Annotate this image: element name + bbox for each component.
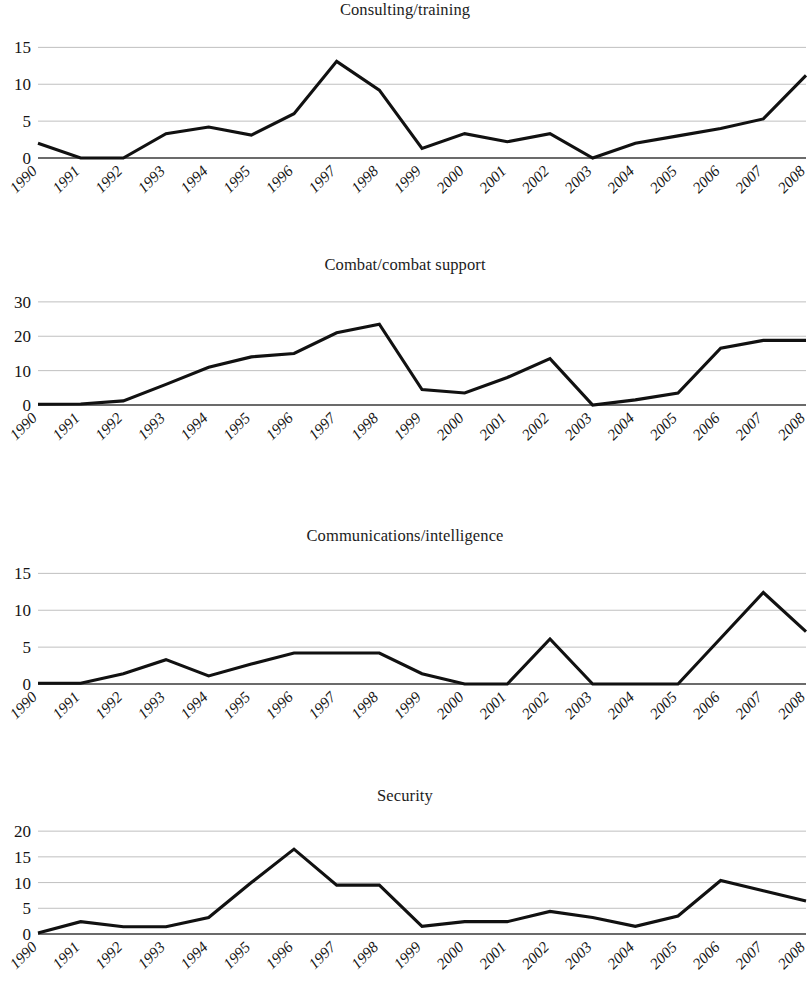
x-axis-tick-label: 1998 [348, 688, 382, 722]
y-axis-tick-label: 30 [14, 293, 31, 312]
chart-panel-security: Security 0510152019901991199219931994199… [0, 788, 810, 985]
x-axis-tick-label: 1998 [348, 409, 382, 443]
x-axis-tick-label: 1996 [262, 409, 296, 443]
x-axis-tick-label: 2007 [732, 408, 767, 443]
plot-area: 0510151990199119921993199419951996199719… [0, 22, 810, 232]
x-axis-tick-label: 1991 [49, 688, 83, 722]
x-axis-tick-label: 2000 [433, 688, 467, 722]
x-axis-tick-label: 1990 [6, 409, 40, 443]
x-axis-tick-label: 1996 [262, 162, 296, 196]
x-axis-tick-label: 2007 [732, 937, 767, 972]
x-axis-tick-labels: 1990199119921993199419951996199719981999… [6, 687, 808, 722]
x-axis-tick-label: 1999 [390, 162, 424, 196]
x-axis-tick-label: 1993 [134, 409, 168, 443]
x-axis-tick-label: 1997 [305, 161, 340, 196]
x-axis-tick-label: 2002 [518, 409, 552, 443]
x-axis-tick-label: 1991 [49, 162, 83, 196]
x-axis-tick-label: 2002 [518, 162, 552, 196]
plot-area: 0510152019901991199219931994199519961997… [0, 808, 810, 985]
x-axis-tick-label: 1990 [6, 938, 40, 972]
x-axis-tick-label: 1992 [92, 938, 126, 972]
line-chart-svg: 0510151990199119921993199419951996199719… [0, 548, 810, 758]
x-axis-tick-label: 2006 [689, 688, 723, 722]
line-chart-svg: 0510152019901991199219931994199519961997… [0, 808, 810, 985]
x-axis-tick-label: 1995 [220, 409, 254, 443]
x-axis-tick-label: 1990 [6, 162, 40, 196]
x-axis-tick-label: 2000 [433, 162, 467, 196]
x-axis-tick-label: 2007 [732, 161, 767, 196]
x-axis-tick-label: 1994 [177, 409, 211, 443]
y-axis-tick-label: 10 [14, 75, 31, 94]
x-axis-tick-label: 1992 [92, 162, 126, 196]
x-axis-tick-label: 2008 [774, 409, 808, 443]
plot-area: 0510151990199119921993199419951996199719… [0, 548, 810, 758]
x-axis-tick-label: 1997 [305, 687, 340, 722]
y-axis-tick-label: 10 [14, 874, 31, 893]
y-axis-tick-label: 10 [14, 362, 31, 381]
x-axis-tick-label: 2001 [476, 162, 510, 196]
chart-panel-communications-intelligence: Communications/intelligence 051015199019… [0, 528, 810, 758]
x-axis-tick-label: 1994 [177, 938, 211, 972]
x-axis-tick-label: 1993 [134, 688, 168, 722]
chart-title: Consulting/training [0, 2, 810, 22]
x-axis-tick-label: 2002 [518, 688, 552, 722]
x-axis-tick-label: 1998 [348, 938, 382, 972]
y-axis-tick-label: 15 [14, 38, 31, 57]
x-axis-tick-label: 1994 [177, 688, 211, 722]
x-axis-tick-label: 1991 [49, 409, 83, 443]
y-axis-tick-label: 5 [23, 899, 32, 918]
x-axis-tick-label: 2005 [646, 688, 680, 722]
chart-title: Communications/intelligence [0, 528, 810, 548]
x-axis-tick-label: 2003 [561, 162, 595, 196]
x-axis-tick-label: 1996 [262, 938, 296, 972]
x-axis-tick-label: 1993 [134, 162, 168, 196]
y-axis-tick-label: 5 [23, 112, 32, 131]
x-axis-tick-label: 1999 [390, 409, 424, 443]
x-axis-tick-label: 1995 [220, 938, 254, 972]
y-axis-tick-label: 20 [14, 822, 31, 841]
x-axis-tick-label: 2003 [561, 409, 595, 443]
data-series-line [38, 849, 806, 933]
chart-panel-consulting-training: Consulting/training 05101519901991199219… [0, 2, 810, 232]
x-axis-tick-label: 2003 [561, 938, 595, 972]
x-axis-tick-label: 2008 [774, 688, 808, 722]
x-axis-tick-label: 1995 [220, 688, 254, 722]
x-axis-tick-label: 1996 [262, 688, 296, 722]
line-chart-svg: 0510151990199119921993199419951996199719… [0, 22, 810, 232]
data-series-line [38, 61, 806, 158]
chart-panel-combat-combat-support: Combat/combat support 010203019901991199… [0, 257, 810, 487]
x-axis-tick-label: 2005 [646, 162, 680, 196]
x-axis-tick-labels: 1990199119921993199419951996199719981999… [6, 937, 808, 972]
x-axis-tick-label: 1992 [92, 409, 126, 443]
x-axis-tick-label: 2008 [774, 162, 808, 196]
x-axis-tick-label: 2005 [646, 409, 680, 443]
x-axis-tick-label: 1991 [49, 938, 83, 972]
x-axis-tick-label: 2007 [732, 687, 767, 722]
x-axis-tick-label: 2006 [689, 938, 723, 972]
x-axis-tick-labels: 1990199119921993199419951996199719981999… [6, 408, 808, 443]
y-axis-tick-label: 20 [14, 327, 31, 346]
x-axis-tick-label: 1997 [305, 408, 340, 443]
x-axis-tick-label: 1998 [348, 162, 382, 196]
x-axis-tick-label: 1994 [177, 162, 211, 196]
x-axis-tick-label: 2002 [518, 938, 552, 972]
chart-title: Combat/combat support [0, 257, 810, 277]
x-axis-tick-label: 1995 [220, 162, 254, 196]
x-axis-tick-label: 2003 [561, 688, 595, 722]
x-axis-tick-label: 2004 [604, 162, 638, 196]
x-axis-tick-label: 2004 [604, 688, 638, 722]
line-chart-svg: 0102030199019911992199319941995199619971… [0, 277, 810, 487]
data-series-line [38, 593, 806, 684]
x-axis-tick-label: 2008 [774, 938, 808, 972]
plot-area: 0102030199019911992199319941995199619971… [0, 277, 810, 487]
x-axis-tick-labels: 1990199119921993199419951996199719981999… [6, 161, 808, 196]
x-axis-tick-label: 2000 [433, 409, 467, 443]
x-axis-tick-label: 2005 [646, 938, 680, 972]
y-axis-tick-label: 5 [23, 638, 32, 657]
y-axis-tick-label: 15 [14, 564, 31, 583]
chart-title: Security [0, 788, 810, 808]
y-axis-tick-label: 15 [14, 848, 31, 867]
x-axis-tick-label: 1992 [92, 688, 126, 722]
x-axis-tick-label: 2004 [604, 409, 638, 443]
chart-stack: Consulting/training 05101519901991199219… [0, 0, 810, 985]
